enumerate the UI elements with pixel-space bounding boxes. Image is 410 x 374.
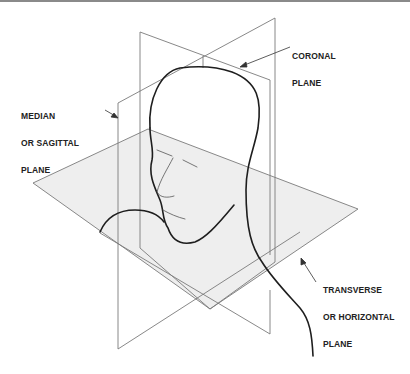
transverse-horizontal-plane-label: TRANSVERSE OR HORIZONTAL PLANE — [323, 268, 395, 358]
median-sagittal-plane-label: MEDIAN OR SAGITTAL PLANE — [21, 94, 79, 184]
transverse-plane — [33, 129, 358, 309]
coronal-plane-label: CORONAL PLANE — [292, 34, 336, 97]
